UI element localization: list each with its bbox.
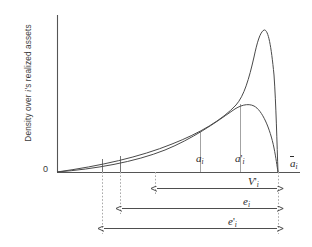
plot-canvas	[0, 0, 312, 247]
origin-label: 0	[43, 164, 48, 174]
label-e-prime-i: e'i	[228, 216, 237, 228]
label-a-i-subscript: i	[202, 157, 204, 166]
density-figure: Density over i's realized assets 0 ai a'…	[0, 0, 312, 247]
label-e-prime-i-subscript: i	[235, 220, 237, 229]
dropline-group	[103, 104, 241, 172]
label-v-prime-i-subscript: i	[257, 180, 259, 189]
measure-arrow-group	[104, 189, 277, 229]
y-axis-label: Density over i's realized assets	[23, 3, 33, 163]
density-curve-low	[57, 105, 278, 172]
label-a-prime-i: a'i	[235, 153, 244, 165]
label-e-i: ei	[243, 196, 250, 208]
label-a-bar-i-base: a	[290, 158, 296, 169]
label-v-prime-i-base: V	[248, 175, 255, 187]
label-v-prime-i: V'i	[248, 176, 259, 188]
label-a-bar-i: ai	[290, 158, 298, 170]
y-axis-label-suffix: 's realized assets	[23, 24, 33, 89]
label-a-i: ai	[196, 153, 204, 165]
y-axis-label-prefix: Density over	[23, 92, 33, 142]
label-e-i-subscript: i	[248, 200, 250, 209]
label-a-prime-i-subscript: i	[242, 157, 244, 166]
axis-group	[57, 15, 300, 173]
density-curve-high	[57, 30, 278, 172]
